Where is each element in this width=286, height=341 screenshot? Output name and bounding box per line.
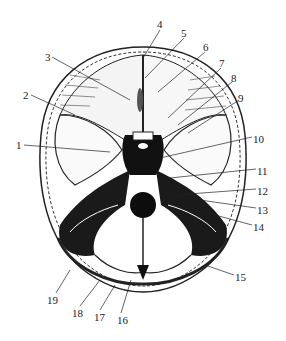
cranial-cavity-diagram: 1 2 3 4 5 6 7 8 9 10 11 12 13 14 15 16 1… [0, 0, 286, 341]
label-19: 19 [47, 295, 58, 306]
label-9: 9 [238, 93, 244, 104]
label-7: 7 [219, 58, 225, 69]
label-1: 1 [16, 140, 22, 151]
label-16: 16 [117, 315, 128, 326]
label-2: 2 [23, 90, 29, 101]
label-13: 13 [257, 205, 268, 216]
label-18: 18 [72, 308, 83, 319]
label-6: 6 [203, 42, 209, 53]
label-14: 14 [253, 222, 264, 233]
label-12: 12 [257, 186, 268, 197]
label-5: 5 [181, 28, 187, 39]
label-17: 17 [94, 312, 105, 323]
label-10: 10 [253, 134, 264, 145]
label-8: 8 [231, 73, 237, 84]
label-4: 4 [157, 19, 163, 30]
skull-illustration [0, 0, 286, 341]
figure-caption [30, 333, 250, 341]
label-15: 15 [235, 272, 246, 283]
label-3: 3 [45, 52, 51, 63]
label-11: 11 [257, 166, 268, 177]
